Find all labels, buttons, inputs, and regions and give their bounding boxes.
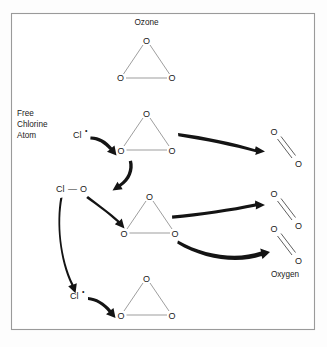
diagram-canvas: O O O Ozone Free Chlorine Atom Cl • O O (0, 0, 327, 347)
atom-chlorine-symbol: Cl (73, 130, 82, 140)
atom-oxygen-top: O (270, 189, 277, 199)
atom-oxygen-apex: O (143, 36, 150, 46)
figure-frame (12, 14, 315, 330)
atom-oxygen-bottom: O (295, 256, 302, 266)
atom-oxygen-top: O (270, 127, 277, 137)
atom-chlorine: Cl (56, 184, 65, 194)
atom-oxygen-apex: O (143, 274, 150, 284)
caption-line-3: Atom (17, 131, 36, 140)
atom-oxygen-right: O (171, 229, 178, 239)
ozone-depletion-diagram: O O O Ozone Free Chlorine Atom Cl • O O (0, 0, 327, 347)
atom-oxygen-left: O (117, 311, 124, 321)
atom-oxygen-left: O (117, 146, 124, 156)
atom-oxygen-left: O (117, 73, 124, 83)
oxygen-label: Oxygen (271, 270, 300, 279)
atom-oxygen-left: O (120, 229, 127, 239)
atom-oxygen-right: O (168, 146, 175, 156)
caption-line-1: Free (17, 109, 34, 118)
atom-oxygen-bottom: O (295, 221, 302, 231)
atom-oxygen-apex: O (143, 109, 150, 119)
caption-line-2: Chlorine (17, 120, 48, 129)
ozone-title-label: Ozone (134, 18, 159, 27)
chlorine-monoxide: Cl — O (56, 184, 87, 194)
atom-oxygen-apex: O (146, 192, 153, 202)
bond-dash-glyph: — (68, 184, 77, 194)
atom-oxygen-right: O (168, 73, 175, 83)
atom-oxygen-top: O (270, 224, 277, 234)
atom-oxygen: O (80, 184, 87, 194)
atom-chlorine-symbol: Cl (70, 291, 79, 301)
atom-oxygen-right: O (168, 311, 175, 321)
atom-oxygen-bottom: O (295, 159, 302, 169)
